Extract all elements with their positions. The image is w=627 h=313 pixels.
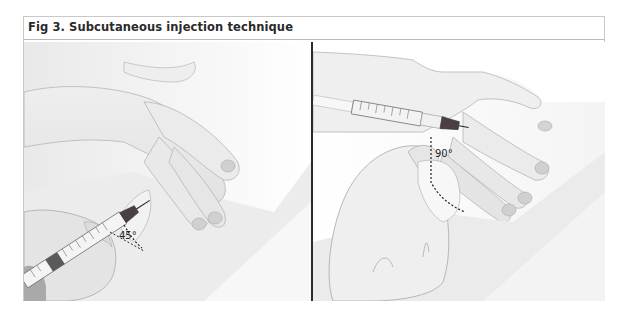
figure-title: Fig 3. Subcutaneous injection technique bbox=[28, 20, 293, 34]
figure: Fig 3. Subcutaneous injection technique bbox=[23, 16, 605, 301]
angle-label-90: 90° bbox=[435, 148, 453, 159]
panel-90-degree: 90° bbox=[313, 42, 605, 301]
panel-45-degree: 45° bbox=[24, 42, 311, 301]
angle-label-45: 45° bbox=[119, 230, 137, 241]
title-rule bbox=[24, 39, 604, 40]
illustration-45-degree bbox=[24, 42, 311, 301]
illustration-90-degree bbox=[313, 42, 605, 301]
